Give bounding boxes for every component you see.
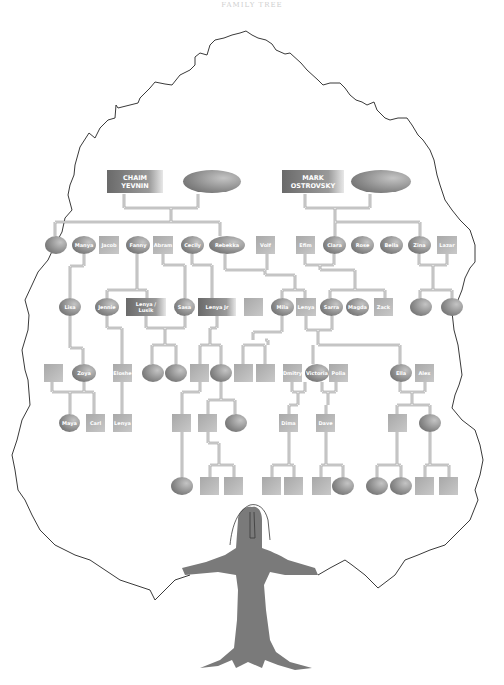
- male-rect-shape: [172, 414, 191, 432]
- person-name-label: Maya: [62, 420, 77, 427]
- person-name-label: Dave: [318, 420, 333, 426]
- person-name-label: Lenya: [298, 304, 315, 311]
- person-node-magda: Magda: [346, 298, 369, 316]
- person-node-zack: Zack: [374, 298, 393, 316]
- person-name-label: Cecily: [184, 242, 201, 249]
- female-ellipse-shape: [171, 477, 193, 495]
- male-rect-shape: [200, 477, 219, 495]
- person-node-bella: Bella: [380, 236, 403, 254]
- connector-line-core: [70, 316, 83, 364]
- family-tree-canvas: CHAIMYEVNINMARKOSTROVSKYManyaJacobFannyA…: [0, 0, 504, 685]
- person-node-mark-spouse: [351, 170, 411, 193]
- connector-line: [55, 194, 220, 236]
- person-name-label: Victoria: [306, 370, 328, 376]
- person-node-g5-r1: [172, 414, 191, 432]
- male-rect-shape: [198, 414, 217, 432]
- male-rect-shape: [388, 414, 407, 432]
- person-name-label: Abram: [154, 242, 173, 248]
- connector-line: [243, 316, 282, 364]
- person-name-label: Rose: [356, 242, 370, 248]
- connector-line-core: [107, 316, 122, 364]
- person-name-label: Lazar: [439, 242, 455, 248]
- person-node-zina: Zina: [408, 236, 431, 254]
- connector-line-core: [163, 254, 185, 298]
- person-name-label: Clara: [327, 242, 342, 248]
- connector-line: [321, 432, 343, 477]
- male-rect-shape: [244, 298, 263, 316]
- connector-line-core: [306, 316, 400, 364]
- person-node-zoya: Zoya: [72, 364, 96, 382]
- person-name-label: Zack: [377, 304, 391, 310]
- person-node-dave: Dave: [316, 414, 335, 432]
- person-node-lenya: Lenya: [296, 298, 316, 316]
- female-ellipse-shape: [351, 170, 411, 193]
- male-rect-shape: [415, 477, 434, 495]
- person-name-label: Polia: [332, 370, 346, 376]
- male-rect-shape: [44, 364, 63, 382]
- connector-line: [70, 254, 84, 298]
- male-rect-shape: [312, 477, 331, 495]
- person-node-rose: Rose: [351, 236, 374, 254]
- person-node-rebekka: Rebekka: [209, 236, 245, 254]
- person-name-label: Sasa: [178, 304, 191, 310]
- person-name-label: Lisa: [64, 304, 75, 310]
- person-name-label: Magda: [348, 304, 367, 311]
- connector-line: [163, 254, 185, 298]
- person-node-abram: Abram: [153, 236, 173, 254]
- connector-line-core: [425, 432, 449, 477]
- connector-line: [52, 382, 94, 414]
- male-rect-shape: [256, 364, 275, 382]
- person-node-dmitry: Dmitry: [283, 364, 303, 382]
- person-name-label: Dima: [281, 420, 295, 426]
- person-node-g3-blank-1: [244, 298, 263, 316]
- female-ellipse-shape: [410, 298, 432, 316]
- person-name-label: Jennie: [97, 304, 116, 310]
- person-name-label: Dmitry: [283, 370, 303, 377]
- person-name-label: Fanny: [130, 242, 148, 249]
- person-node-lenya-jr: Lenya Jr: [198, 298, 236, 316]
- person-node-jacob: Jacob: [99, 236, 119, 254]
- person-node-g6-e3: [366, 477, 388, 495]
- female-ellipse-shape: [390, 477, 412, 495]
- connector-line-core: [305, 254, 385, 298]
- connector-line: [272, 432, 294, 477]
- male-rect-shape: [190, 364, 209, 382]
- person-node-mark: MARKOSTROVSKY: [282, 170, 344, 193]
- person-name-label: CHAIMYEVNIN: [120, 174, 148, 190]
- person-node-g6-r4: [284, 477, 303, 495]
- person-node-g2-1: [45, 236, 67, 254]
- female-ellipse-shape: [45, 236, 67, 254]
- connector-line-core: [192, 254, 212, 298]
- connector-line: [225, 254, 305, 298]
- connector-line: [107, 316, 122, 364]
- person-node-g6-e2: [332, 477, 354, 495]
- person-node-g6-r2: [224, 477, 243, 495]
- female-ellipse-shape: [441, 298, 463, 316]
- person-node-g6-r6: [415, 477, 434, 495]
- person-node-g5-r3: [388, 414, 407, 432]
- person-node-g5-e2: [419, 414, 441, 432]
- person-node-g4-e1: [142, 364, 164, 382]
- connector-line: [425, 432, 449, 477]
- person-name-label: Ella: [396, 370, 406, 376]
- person-name-label: Bella: [384, 242, 398, 248]
- person-node-g4-r4: [256, 364, 275, 382]
- connector-line: [192, 254, 212, 298]
- connector-line-core: [70, 254, 84, 298]
- person-node-jennie: Jennie: [95, 298, 119, 316]
- female-ellipse-shape: [332, 477, 354, 495]
- person-name-label: Mila: [277, 304, 289, 310]
- person-node-efim: Efim: [296, 236, 315, 254]
- connector-line-core: [321, 432, 343, 477]
- person-name-label: Zoya: [77, 370, 91, 377]
- person-node-g3-e2: [441, 298, 463, 316]
- person-node-manya: Manya: [72, 236, 96, 254]
- connector-line-core: [182, 382, 200, 414]
- person-name-label: Efim: [299, 242, 311, 248]
- person-name-label: Jacob: [100, 242, 117, 248]
- person-name-label: Carl: [90, 420, 102, 426]
- person-node-g5-r2: [198, 414, 217, 432]
- person-name-label: Sarra: [324, 304, 339, 310]
- connector-line: [305, 254, 385, 298]
- person-node-g6-r3: [262, 477, 281, 495]
